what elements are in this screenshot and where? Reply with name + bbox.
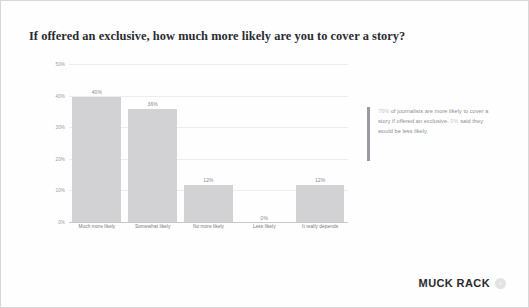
y-axis-tick-label: 20% xyxy=(56,156,66,161)
page-title: If offered an exclusive, how much more l… xyxy=(29,29,499,44)
bar-column[interactable]: 40% xyxy=(72,65,121,223)
slide-container: If offered an exclusive, how much more l… xyxy=(0,0,529,308)
callout-box: 76% of journalists are more likely to co… xyxy=(367,107,495,161)
logo-wordmark: MUCK RACK xyxy=(419,277,490,289)
bar[interactable] xyxy=(184,185,233,223)
x-axis-category-label: It really depends xyxy=(296,224,345,230)
bar-chart: 50%40%30%20%10%0% 40%36%12%0%12% Much mo… xyxy=(43,65,348,237)
x-axis-labels: Much more likelySomewhat likelyNo more l… xyxy=(69,224,348,237)
y-axis-tick-label: 40% xyxy=(56,93,66,98)
bar-value-label: 36% xyxy=(148,101,158,107)
bar[interactable] xyxy=(72,97,121,223)
bar-column[interactable]: 12% xyxy=(184,65,233,223)
callout-stat-primary: 76% xyxy=(378,108,389,114)
y-axis-tick-label: 10% xyxy=(56,188,66,193)
y-axis-tick-label: 0% xyxy=(58,220,65,225)
y-axis-tick-label: 30% xyxy=(56,125,66,130)
bar[interactable] xyxy=(296,185,345,223)
y-axis-tick-label: 50% xyxy=(56,62,66,67)
bar-value-label: 40% xyxy=(92,89,102,95)
x-axis-category-label: Less likely xyxy=(240,224,289,230)
bar-column[interactable]: 0% xyxy=(240,65,289,223)
bar-value-label: 12% xyxy=(315,177,325,183)
bar-column[interactable]: 36% xyxy=(128,65,177,223)
muck-rack-logo: MUCK RACK • xyxy=(419,277,506,289)
bar-value-label: 0% xyxy=(261,215,268,221)
bar-value-label: 12% xyxy=(203,177,213,183)
bar-column[interactable]: 12% xyxy=(296,65,345,223)
chart-plot-area: 50%40%30%20%10%0% 40%36%12%0%12% xyxy=(69,65,348,223)
callout-text: 76% of journalists are more likely to co… xyxy=(378,107,495,161)
x-axis-category-label: Somewhat likely xyxy=(128,224,177,230)
x-axis-category-label: Much more likely xyxy=(72,224,121,230)
callout-stat-secondary: 0% xyxy=(450,118,458,124)
logo-badge-icon: • xyxy=(495,278,506,289)
bar[interactable] xyxy=(128,109,177,223)
axis-baseline xyxy=(69,222,348,223)
x-axis-category-label: No more likely xyxy=(184,224,233,230)
callout-accent-bar xyxy=(367,107,370,161)
bars-group: 40%36%12%0%12% xyxy=(69,65,348,223)
